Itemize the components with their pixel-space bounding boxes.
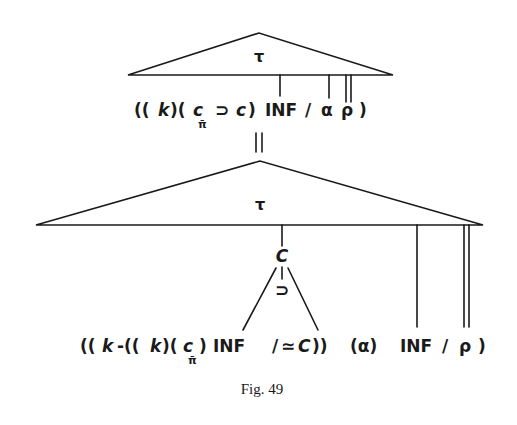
bottom-formula-close3: )	[478, 336, 486, 356]
bottom-tree-triangle	[36, 161, 483, 225]
top-formula-rho: ρ	[341, 100, 353, 120]
top-formula-c2: c	[236, 100, 246, 120]
bottom-formula-inf2: INF	[400, 336, 432, 356]
bottom-formula-minus: -((	[117, 336, 140, 356]
c-subtree-operator: ⊃	[275, 280, 289, 300]
bottom-formula-alpha-group: (α)	[350, 336, 377, 356]
bottom-formula-close2: ))	[312, 336, 328, 356]
bottom-node-c-label: C	[276, 246, 289, 266]
bottom-formula-c: c	[183, 336, 193, 356]
top-formula-alpha: α	[321, 100, 333, 120]
bottom-formula-close: )	[199, 336, 207, 356]
top-formula-close: )	[248, 100, 256, 120]
tree-diagram-figure: τ (( k )( c π̄ ⊃ c ) INF / α ρ ) τ	[0, 0, 517, 425]
top-formula-open: ((	[134, 100, 150, 120]
top-tree: τ (( k )( c π̄ ⊃ c ) INF / α ρ )	[128, 33, 393, 131]
bottom-formula-c-subscript: π̄	[188, 354, 197, 367]
c-subtree-left-branch	[243, 268, 276, 330]
equality-connector	[256, 133, 262, 152]
bottom-formula-approx: ≃	[281, 336, 295, 356]
top-tree-root-label: τ	[254, 47, 264, 66]
bottom-formula-slash: /	[272, 336, 279, 356]
top-formula-close2: )	[359, 100, 367, 120]
bottom-formula-k: k	[102, 336, 115, 356]
bottom-formula-mid: )(	[162, 336, 178, 356]
bottom-formula-c2: C	[298, 336, 311, 356]
bottom-formula-open: ((	[80, 336, 96, 356]
bottom-formula-inf: INF	[213, 336, 245, 356]
bottom-tree: τ C ⊃ (( k -(( k )( c π̄ ) INF / ≃ C )) …	[36, 161, 486, 367]
top-formula-mid: )(	[170, 100, 186, 120]
top-formula-c-subscript: π̄	[198, 118, 207, 131]
c-subtree-right-branch	[288, 268, 318, 330]
top-formula: (( k )( c π̄ ⊃ c ) INF / α ρ )	[134, 100, 367, 131]
bottom-tree-root-label: τ	[255, 195, 265, 214]
top-formula-slash: /	[305, 100, 312, 120]
top-formula-implies: ⊃	[215, 100, 229, 120]
bottom-formula: (( k -(( k )( c π̄ ) INF / ≃ C )) (α) IN…	[80, 336, 486, 367]
top-formula-inf: INF	[265, 100, 297, 120]
bottom-formula-slash2: /	[442, 336, 449, 356]
top-formula-c: c	[193, 100, 203, 120]
figure-caption: Fig. 49	[241, 381, 284, 397]
bottom-formula-rho: ρ	[459, 336, 471, 356]
